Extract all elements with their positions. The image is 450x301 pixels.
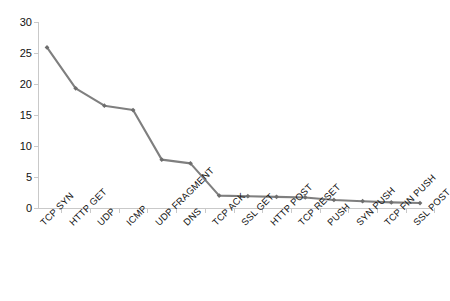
data-point [389,200,394,205]
chart-axes [34,22,435,213]
y-axis-tick-label: 15 [10,110,32,121]
line-chart: 051015202530 TCP SYNHTTP GETUDPICMPUDP F… [0,0,450,301]
y-axis-tick-label: 0 [10,203,32,214]
y-axis-tick-label: 25 [10,48,32,59]
y-axis-tick-label: 5 [10,172,32,183]
y-axis-tick-label: 30 [10,17,32,28]
chart-series-layer [47,47,420,203]
chart-markers-layer [45,45,423,205]
data-point [418,201,423,206]
chart-plot-area [0,0,450,301]
y-axis-tick-label: 20 [10,79,32,90]
data-point [360,199,365,204]
y-axis-tick-label: 10 [10,141,32,152]
